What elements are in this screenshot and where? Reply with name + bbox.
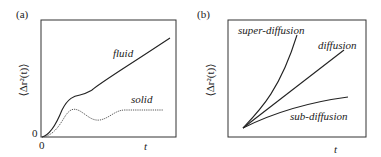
fluid-label: fluid (113, 47, 134, 59)
panel-b-label: (b) (197, 8, 210, 21)
panel-a: (a) ⟨Δr²(t)⟩ 0 0 t fluid solid (16, 8, 176, 152)
panel-a-ylabel: ⟨Δr²(t)⟩ (17, 64, 30, 97)
panel-a-xlabel: t (144, 140, 148, 152)
panel-a-y0: 0 (32, 127, 38, 139)
diffusion-label: diffusion (318, 39, 357, 51)
super-diffusion-curve (243, 35, 297, 128)
panel-b-xlabel: t (334, 143, 338, 155)
panel-a-label: (a) (16, 8, 29, 21)
super-diffusion-label: super-diffusion (238, 24, 305, 36)
panel-b: (b) ⟨Δr²(t)⟩ t super-diffusion diffusion… (197, 8, 366, 155)
panel-b-ylabel: ⟨Δr²(t)⟩ (204, 64, 217, 97)
panel-a-x0: 0 (39, 139, 45, 151)
figure: (a) ⟨Δr²(t)⟩ 0 0 t fluid solid (b) ⟨Δr²(… (0, 0, 381, 157)
solid-label: solid (131, 93, 153, 105)
sub-diffusion-label: sub-diffusion (290, 110, 348, 122)
